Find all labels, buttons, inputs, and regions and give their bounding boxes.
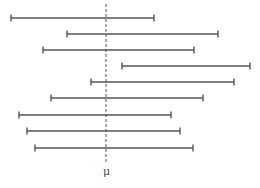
mu-label: μ (103, 165, 110, 178)
interval-8 (27, 128, 180, 135)
interval-3 (43, 47, 194, 54)
interval-6 (51, 95, 203, 102)
confidence-interval-chart (0, 0, 260, 188)
interval-7 (19, 112, 171, 119)
interval-9 (35, 145, 193, 152)
interval-5 (91, 79, 234, 86)
interval-2 (67, 31, 218, 38)
interval-4 (122, 63, 250, 70)
interval-1 (11, 15, 154, 22)
